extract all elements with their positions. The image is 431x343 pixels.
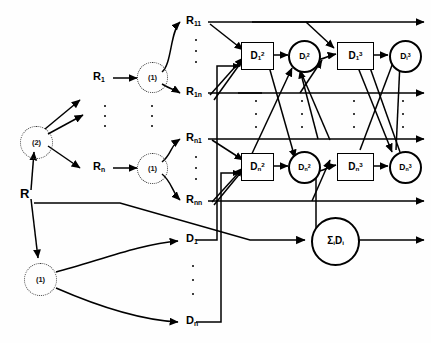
ellipsis-r-mid	[103, 105, 107, 127]
label-Dn-base: D	[186, 314, 194, 326]
label-R11-base: R	[186, 14, 194, 26]
box-D1-2-base: D	[250, 50, 257, 61]
edge-agg2-to-mid	[48, 115, 83, 134]
ellipsis-d1-dn	[191, 265, 195, 295]
label-Rn1-base: R	[186, 131, 194, 143]
ellipsis-col-d1circ	[300, 100, 304, 128]
node-agg-1b[interactable]: (1)	[137, 153, 168, 184]
label-Rn-base: R	[93, 160, 101, 172]
label-R1-base: R	[93, 70, 101, 82]
box-D1-2-sup: 2	[261, 50, 264, 57]
circle-Di-2-label: Di2	[299, 52, 310, 61]
circle-Di-3[interactable]: Di3	[389, 40, 422, 73]
label-R1n-sub: 1n	[194, 91, 202, 98]
label-Rnn-sub: nn	[194, 199, 202, 206]
edge-R11-to-D1box	[210, 24, 243, 50]
circle-Di-2[interactable]: Di2	[288, 40, 321, 73]
edge-agg1c-to-D1	[56, 241, 178, 272]
circle-Di-3-label: Di3	[400, 52, 411, 61]
node-agg-1b-label: (1)	[148, 164, 157, 173]
edge-cross-right-down	[360, 60, 394, 150]
node-agg-1a[interactable]: (1)	[137, 62, 168, 93]
circle-Dn-2-sup: 2	[308, 163, 311, 169]
ellipsis-r11-r1n	[194, 39, 198, 63]
box-D1-3-base: D	[348, 50, 355, 61]
node-agg-1a-label: (1)	[148, 73, 157, 82]
edge-feeder-b	[214, 171, 242, 205]
label-R11-sub: 11	[194, 20, 201, 27]
ellipsis-col-d1box	[254, 100, 258, 128]
box-Dn-3[interactable]: Dn3	[337, 153, 374, 181]
label-Rnn-base: R	[186, 193, 194, 205]
edge-agg1a-to-R11	[162, 22, 180, 72]
node-agg-2-label: (2)	[32, 138, 41, 147]
label-R1n: R1n	[186, 86, 202, 98]
label-R1: R1	[93, 71, 105, 83]
label-Dn: Dn	[186, 315, 198, 327]
label-Rn1: Rn1	[186, 132, 202, 144]
box-Dn-2-base: D	[250, 161, 257, 172]
ellipsis-col-d3box	[352, 100, 356, 128]
box-Dn-2-label: Dn2	[250, 162, 264, 173]
label-R11: R11	[186, 15, 201, 27]
edge-agg2-to-Rn	[48, 146, 80, 168]
edge-agg2-to-R1	[45, 100, 80, 129]
label-Dn-sub: n	[194, 320, 198, 327]
edge-up-to-D13circ	[396, 62, 400, 150]
box-D1-3[interactable]: D13	[337, 42, 374, 70]
diagram-canvas: R (2) (1) (1) (1) R1 Rn R11 R1n Rn1 Rnn …	[0, 0, 431, 343]
box-D1-3-label: D13	[348, 51, 362, 62]
ellipsis-rn1-rnn	[194, 156, 198, 180]
label-R1n-base: R	[186, 85, 194, 97]
edge-R1n-to-D1box	[210, 58, 243, 95]
edge-feeder-a	[214, 61, 242, 100]
box-Dn-3-label: Dn3	[348, 162, 362, 173]
circle-Di-2-sup: 2	[307, 52, 310, 58]
label-Rn-sub: n	[101, 166, 105, 173]
box-D1-3-sup: 3	[359, 50, 362, 57]
circle-Dn-3[interactable]: Dn3	[389, 151, 422, 184]
label-Rnn: Rnn	[186, 194, 202, 206]
label-R1-sub: 1	[101, 76, 105, 83]
ellipsis-agg-mid	[150, 105, 154, 127]
edge-D13box-to-Dn3circ	[355, 60, 392, 152]
edge-root-to-agg1c	[31, 199, 38, 258]
circle-Dn-3-label: Dn3	[399, 163, 411, 172]
edge-root-to-sum	[34, 203, 305, 240]
node-agg-2[interactable]: (2)	[20, 126, 53, 159]
circle-Dn-3-sup: 3	[409, 163, 412, 169]
circle-Dn-2[interactable]: Dn2	[288, 151, 321, 184]
box-Dn-3-sup: 3	[359, 161, 362, 168]
label-D1-sub: 1	[194, 238, 198, 245]
box-D1-2[interactable]: D12	[241, 42, 274, 70]
box-Dn-2[interactable]: Dn2	[241, 153, 274, 181]
box-D1-2-label: D12	[250, 51, 264, 62]
root-label: R	[20, 186, 29, 201]
node-sum-D-label: ΣiDi	[327, 236, 344, 247]
circle-Di-3-sup: 3	[408, 52, 411, 58]
node-agg-1c-label: (1)	[36, 275, 45, 284]
circle-Dn-2-label: Dn2	[298, 163, 310, 172]
label-Rn1-sub: n1	[194, 137, 202, 144]
node-agg-1c[interactable]: (1)	[24, 263, 57, 296]
label-D1: D1	[186, 233, 198, 245]
label-Rn: Rn	[93, 161, 105, 173]
label-D1-base: D	[186, 232, 194, 244]
edge-agg1c-to-Dn	[56, 288, 178, 322]
box-Dn-3-base: D	[348, 161, 355, 172]
node-sum-D[interactable]: ΣiDi	[311, 217, 360, 266]
box-Dn-2-sup: 2	[261, 161, 264, 168]
ellipsis-col-d3circ	[401, 100, 405, 128]
sum-sub2: i	[342, 240, 344, 247]
